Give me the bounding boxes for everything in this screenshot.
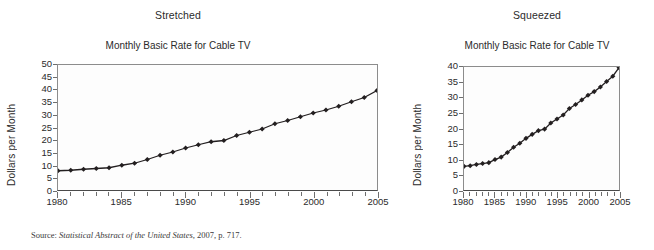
data-point-marker	[362, 95, 367, 100]
plot-area-squeezed	[463, 66, 620, 191]
x-axis-tick-mark	[476, 192, 477, 196]
x-axis-tick-mark	[70, 192, 71, 196]
data-point-marker	[221, 138, 226, 143]
plot-area-stretched	[57, 64, 378, 191]
x-axis-tick-mark	[507, 192, 508, 196]
series-line	[58, 91, 377, 171]
x-axis-tick-mark	[224, 192, 225, 196]
data-point-marker	[94, 166, 99, 171]
y-axis-tick-label: 5	[30, 174, 52, 184]
x-axis-tick-label: 2005	[358, 197, 398, 207]
x-axis-tick-mark	[96, 192, 97, 196]
data-point-marker	[132, 161, 137, 166]
x-axis-tick-mark	[576, 192, 577, 196]
x-axis-tick-label: 1990	[165, 197, 205, 207]
data-point-marker	[486, 160, 491, 165]
y-axis-tick-label: 35	[436, 77, 458, 87]
x-axis-tick-label: 1980	[37, 197, 77, 207]
data-point-marker	[247, 130, 252, 135]
x-axis-tick-mark	[607, 192, 608, 196]
y-axis-tick-label: 20	[30, 135, 52, 145]
y-axis-tick-label: 5	[436, 171, 458, 181]
data-point-marker	[157, 153, 162, 158]
y-axis-label-squeezed: Dollars per Month	[412, 74, 423, 186]
y-axis-tick-label: 25	[436, 108, 458, 118]
y-axis-tick-label: 0	[436, 186, 458, 196]
source-note: Source: Statistical Abstract of the Unit…	[31, 230, 242, 240]
y-axis-tick-label: 40	[436, 61, 458, 71]
x-axis-tick-mark	[365, 192, 366, 196]
x-axis-tick-mark	[198, 192, 199, 196]
chart-title-squeezed: Monthly Basic Rate for Cable TV	[410, 40, 654, 51]
panel-label-squeezed: Squeezed	[410, 9, 654, 21]
chart-title-stretched: Monthly Basic Rate for Cable TV	[0, 40, 378, 51]
data-point-marker	[272, 121, 277, 126]
y-axis-tick-label: 0	[30, 186, 52, 196]
data-point-marker	[209, 139, 214, 144]
data-point-marker	[196, 142, 201, 147]
y-axis-tick-label: 20	[436, 124, 458, 134]
x-axis-tick-mark	[570, 192, 571, 196]
y-axis-tick-label: 40	[30, 85, 52, 95]
source-label: Source:	[31, 230, 59, 240]
data-point-marker	[68, 168, 73, 173]
x-axis-tick-mark	[147, 192, 148, 196]
data-point-marker	[81, 167, 86, 172]
series-svg-squeezed	[464, 67, 619, 190]
data-point-marker	[234, 133, 239, 138]
data-point-marker	[480, 161, 485, 166]
y-axis-label-stretched: Dollars per Month	[6, 74, 17, 186]
panel-label-stretched: Stretched	[0, 9, 378, 21]
data-point-marker	[464, 164, 467, 169]
data-point-marker	[106, 165, 111, 170]
data-point-marker	[474, 162, 479, 167]
x-axis-tick-mark	[211, 192, 212, 196]
x-axis-tick-mark	[352, 192, 353, 196]
data-point-marker	[349, 99, 354, 104]
y-axis-tick-label: 45	[30, 72, 52, 82]
y-axis-tick-label: 15	[30, 148, 52, 158]
x-axis-tick-label: 1995	[230, 197, 270, 207]
y-axis-tick-label: 30	[436, 93, 458, 103]
y-axis-tick-label: 50	[30, 59, 52, 69]
x-axis-tick-mark	[237, 192, 238, 196]
x-axis-tick-mark	[545, 192, 546, 196]
x-axis-tick-mark	[160, 192, 161, 196]
x-axis-tick-mark	[275, 192, 276, 196]
data-point-marker	[298, 114, 303, 119]
data-point-marker	[170, 149, 175, 154]
x-axis-tick-mark	[173, 192, 174, 196]
y-axis-tick-label: 35	[30, 97, 52, 107]
x-axis-tick-mark	[327, 192, 328, 196]
x-axis-tick-mark	[513, 192, 514, 196]
data-point-marker	[119, 163, 124, 168]
series-line	[464, 68, 619, 167]
x-axis-tick-mark	[134, 192, 135, 196]
data-point-marker	[260, 126, 265, 131]
x-axis-tick-mark	[108, 192, 109, 196]
y-axis-tick-label: 30	[30, 110, 52, 120]
x-axis-tick-mark	[83, 192, 84, 196]
y-axis-tick-label: 15	[436, 139, 458, 149]
x-axis-tick-label: 2000	[294, 197, 334, 207]
data-point-marker	[336, 104, 341, 109]
x-axis-tick-mark	[538, 192, 539, 196]
series-svg-stretched	[58, 65, 377, 190]
x-axis-tick-mark	[262, 192, 263, 196]
source-title: Statistical Abstract of the United State…	[59, 230, 195, 240]
data-point-marker	[492, 157, 497, 162]
data-point-marker	[311, 110, 316, 115]
x-axis-tick-mark	[301, 192, 302, 196]
data-point-marker	[145, 157, 150, 162]
figure-canvas: Stretched Monthly Basic Rate for Cable T…	[0, 0, 654, 250]
source-tail: 2007, p. 717.	[195, 230, 242, 240]
data-point-marker	[323, 107, 328, 112]
y-axis-tick-label: 10	[436, 155, 458, 165]
x-axis-tick-mark	[339, 192, 340, 196]
data-point-marker	[58, 168, 61, 173]
x-axis-tick-label: 2005	[600, 197, 640, 207]
x-axis-tick-label: 1985	[101, 197, 141, 207]
y-axis-tick-label: 10	[30, 161, 52, 171]
data-point-marker	[183, 145, 188, 150]
data-point-marker	[468, 163, 473, 168]
